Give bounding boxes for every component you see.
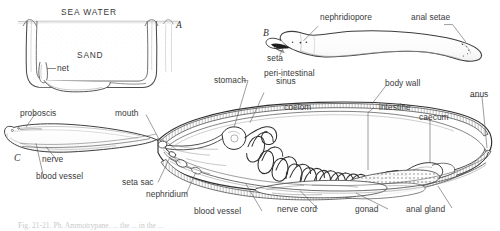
- label-caecum: caecum: [419, 113, 449, 122]
- label-body-wall: body wall: [385, 79, 420, 88]
- label-net: net: [57, 64, 69, 73]
- label-coelom: coelom: [284, 103, 311, 112]
- panel-b-id: B: [263, 28, 269, 38]
- figure-caption: Fig. 21-21. Ph. Ammotrypane. ... the ...…: [18, 221, 164, 230]
- label-gonad: gonad: [355, 205, 379, 214]
- panel-c-id: C: [14, 153, 20, 163]
- label-seta: seta: [267, 54, 283, 63]
- label-stomach: stomach: [214, 76, 246, 85]
- label-seta-sac: seta sac: [122, 178, 154, 187]
- label-blood-vessel-ventral: blood vessel: [194, 207, 241, 216]
- panel-a-id: A: [176, 20, 182, 30]
- panel-b-artwork: [266, 25, 482, 62]
- label-anal-setae: anal setae: [411, 13, 450, 22]
- label-nerve: nerve: [42, 155, 63, 164]
- label-sea-water: SEA WATER: [61, 8, 117, 17]
- label-intestine: intestine: [379, 103, 411, 112]
- label-blood-vessel-anterior: blood vessel: [36, 172, 83, 181]
- figure-root: A SEA WATER SAND net B nephridiopore ana…: [0, 0, 500, 231]
- label-mouth: mouth: [115, 109, 139, 118]
- label-nerve-cord: nerve cord: [277, 205, 317, 214]
- label-nephridium: nephridium: [146, 190, 188, 199]
- label-peri-intestinal-sinus-line2: sinus: [276, 77, 296, 86]
- label-nephridiopore: nephridiopore: [320, 13, 372, 22]
- label-anus: anus: [470, 90, 488, 99]
- label-anal-gland: anal gland: [406, 205, 445, 214]
- label-sand: SAND: [77, 51, 103, 60]
- panel-c-artwork: [5, 81, 492, 211]
- label-proboscis: proboscis: [20, 109, 56, 118]
